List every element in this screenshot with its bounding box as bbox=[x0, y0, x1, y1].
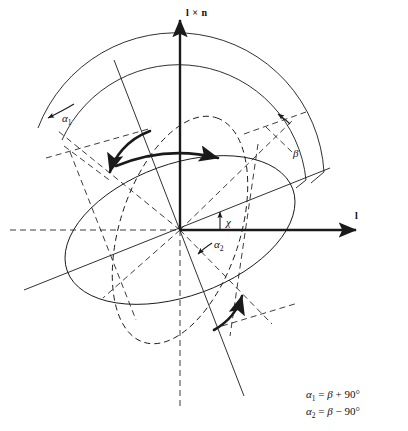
angle-indicator-arrows bbox=[48, 104, 290, 254]
dashed-tangent-left bbox=[64, 146, 112, 182]
dashed-chord-upper-right bbox=[244, 112, 306, 134]
angle-label-alpha2: α2 bbox=[214, 239, 224, 253]
angle-label-chi: χ bbox=[226, 217, 231, 228]
beta-arrow bbox=[278, 114, 290, 124]
equation-alpha1: α1 = β + 90° bbox=[306, 387, 360, 404]
inner-arc bbox=[62, 65, 306, 180]
equations-block: α1 = β + 90° α2 = β − 90° bbox=[306, 387, 360, 422]
dashed-diagonal-lower-left bbox=[103, 230, 180, 298]
dashed-chord-upper-left bbox=[46, 128, 152, 158]
alpha2-arrow bbox=[198, 243, 212, 254]
axis-label-lxn: l × n bbox=[186, 8, 208, 18]
beta-tie-outer bbox=[311, 172, 324, 183]
rotation-arrow-bottom bbox=[214, 296, 242, 330]
vector-rotation-diagram bbox=[0, 0, 408, 431]
dashed-diagonal-upper-left bbox=[58, 131, 180, 230]
angle-label-beta: β bbox=[293, 148, 298, 159]
dashed-stem-right bbox=[230, 144, 258, 336]
rotation-arrow-right bbox=[116, 153, 218, 166]
axis-label-l: l bbox=[355, 211, 358, 221]
bold-axes bbox=[180, 20, 356, 230]
angle-label-alpha1: α1 bbox=[62, 113, 72, 127]
dashed-tangent-right bbox=[266, 127, 292, 152]
dashed-stem-left bbox=[70, 152, 136, 320]
equation-alpha2: α2 = β − 90° bbox=[306, 404, 360, 421]
